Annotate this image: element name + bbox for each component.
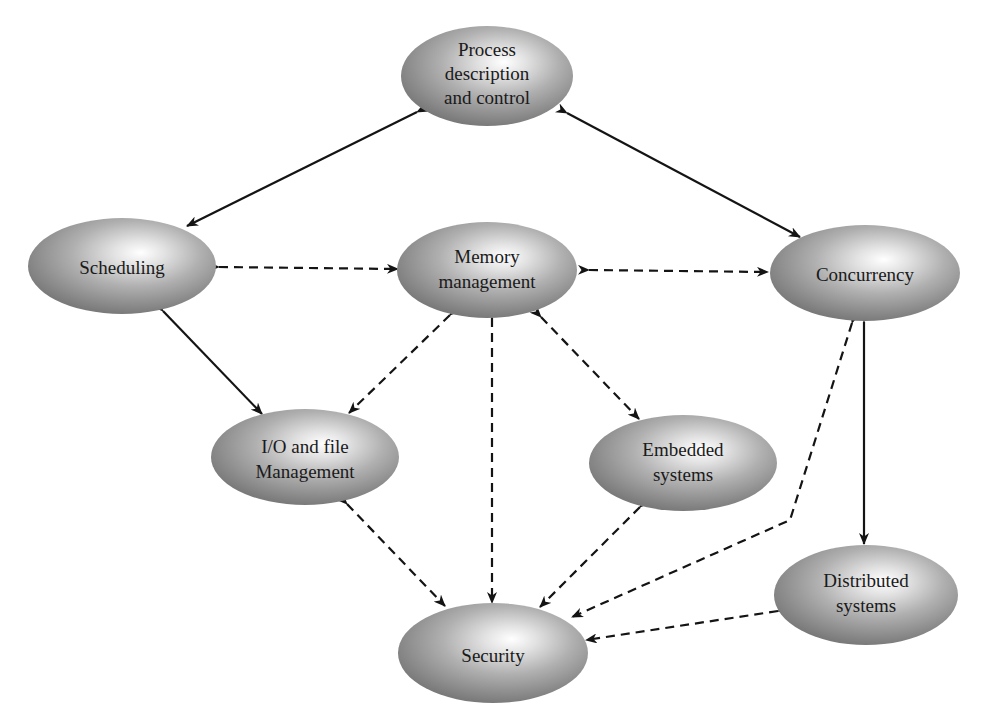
node-embedded-systems: Embedded systems — [589, 415, 777, 511]
node-label: Distributed — [823, 570, 909, 591]
node-scheduling: Scheduling — [28, 218, 216, 314]
edge-embedded-security — [540, 507, 640, 607]
node-process-description-and-control: Process description and control — [401, 26, 573, 126]
edge-memory-embedded — [541, 317, 639, 419]
node-label: Process — [458, 39, 516, 60]
node-label: Security — [461, 645, 525, 666]
node-label: systems — [653, 464, 713, 485]
node-label: Memory — [454, 246, 520, 267]
node-memory-management: Memory management — [397, 222, 577, 318]
node-concurrency: Concurrency — [770, 225, 960, 321]
edge-memory-concurrency — [589, 270, 768, 272]
node-label: management — [438, 271, 536, 292]
node-label: and control — [444, 87, 530, 108]
edge-scheduling-io — [163, 311, 262, 414]
edges — [163, 112, 864, 640]
os-topics-diagram: Process description and control Scheduli… — [0, 0, 991, 722]
node-label: systems — [836, 595, 896, 616]
edge-process-concurrency — [567, 113, 800, 237]
node-io-and-file-management: I/O and file Management — [211, 409, 399, 505]
node-security: Security — [398, 603, 588, 703]
node-label: Management — [255, 461, 355, 482]
edge-process-scheduling — [187, 112, 417, 226]
node-label: I/O and file — [261, 436, 349, 457]
node-label: Concurrency — [816, 264, 915, 285]
node-label: Scheduling — [79, 257, 165, 278]
edge-scheduling-memory — [219, 267, 398, 269]
node-label: description — [445, 63, 530, 84]
edge-io-security — [347, 504, 445, 606]
edge-memory-io — [349, 315, 450, 413]
node-label: Embedded — [642, 439, 724, 460]
edge-distributed-security — [586, 611, 778, 640]
node-distributed-systems: Distributed systems — [774, 545, 958, 645]
